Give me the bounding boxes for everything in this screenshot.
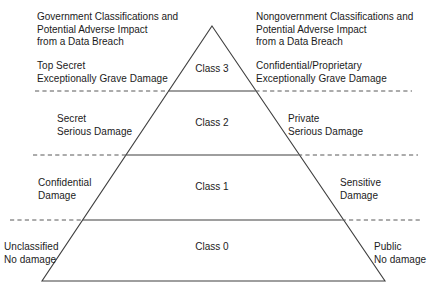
header-right-caption: Nongovernment Classifications and Potent… — [256, 11, 413, 49]
level-0-right-label: Public No damage — [374, 241, 426, 266]
level-0-class-label: Class 0 — [172, 241, 252, 254]
level-1-class-label: Class 1 — [172, 181, 252, 194]
level-3-class-label: Class 3 — [172, 63, 252, 76]
level-3-left-label: Top Secret Exceptionally Grave Damage — [37, 60, 168, 85]
level-2-right-label: Private Serious Damage — [288, 113, 363, 138]
classification-pyramid-diagram: Government Classifications and Potential… — [0, 0, 441, 299]
header-left-caption: Government Classifications and Potential… — [37, 11, 178, 49]
level-2-left-label: Secret Serious Damage — [57, 113, 132, 138]
level-3-right-label: Confidential/Proprietary Exceptionally G… — [256, 60, 387, 85]
level-0-left-label: Unclassified No damage — [4, 241, 59, 266]
level-1-right-label: Sensitive Damage — [340, 177, 381, 202]
level-2-class-label: Class 2 — [172, 117, 252, 130]
level-1-left-label: Confidential Damage — [38, 177, 91, 202]
